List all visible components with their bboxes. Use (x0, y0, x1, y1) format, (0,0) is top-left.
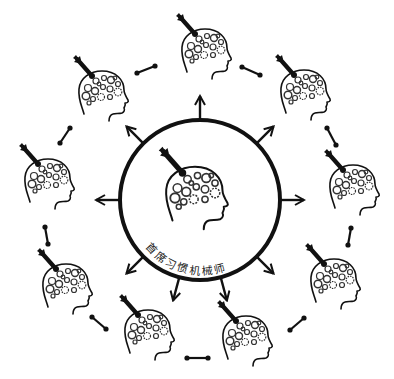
connector-left-to-upperleft (57, 125, 72, 145)
connector-upperleft-to-top (134, 63, 157, 75)
head-with-wrench-icon-top-right (275, 54, 330, 120)
head-with-wrench-icon-lower-right (305, 243, 360, 309)
connector-lowerleft-to-left (42, 224, 50, 246)
connector-bottomright-to-bottomleft (184, 355, 210, 360)
center-circle (120, 120, 280, 280)
head-with-wrench-icon-bottom-right (217, 300, 272, 366)
head-with-wrench-icon-left (19, 143, 74, 209)
head-with-wrench-icon-top (176, 13, 231, 79)
connector-topright-to-right (324, 125, 338, 147)
connector-top-to-topright (239, 64, 262, 77)
connector-lowerright-to-bottomright (287, 315, 306, 332)
connector-bottomleft-to-lowerleft (89, 314, 108, 331)
connector-right-to-lowerright (345, 225, 353, 247)
head-with-wrench-icon-lower-left (37, 248, 92, 314)
head-with-wrench-icon-upper-left (73, 55, 128, 121)
head-with-wrench-icon-right (324, 149, 379, 215)
diagram-canvas: 首席习惯机械师 (0, 0, 394, 379)
head-with-wrench-icon-bottom-left (119, 294, 174, 360)
